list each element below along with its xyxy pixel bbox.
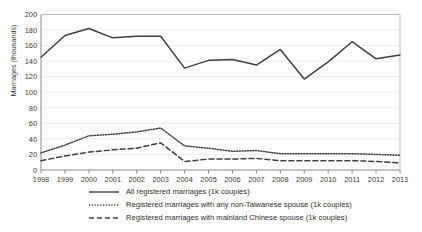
svg-text:2004: 2004: [176, 175, 192, 184]
svg-text:0: 0: [33, 166, 37, 175]
series-line: [41, 29, 400, 80]
line-chart: Marriages (thousands) 020406080100120140…: [0, 0, 422, 232]
legend-key-dashed-icon: [88, 213, 120, 223]
svg-text:120: 120: [25, 72, 37, 81]
svg-text:60: 60: [29, 119, 37, 128]
svg-text:1999: 1999: [57, 175, 73, 184]
legend-label: All registered marriages (1k couples): [126, 187, 250, 197]
svg-text:2008: 2008: [272, 175, 288, 184]
svg-text:2006: 2006: [224, 175, 240, 184]
svg-text:160: 160: [25, 41, 37, 50]
svg-text:2002: 2002: [129, 175, 145, 184]
svg-text:2010: 2010: [320, 175, 336, 184]
svg-text:2009: 2009: [296, 175, 312, 184]
svg-text:2012: 2012: [368, 175, 384, 184]
svg-text:2011: 2011: [344, 175, 360, 184]
legend-label: Registered marriages with mainland Chine…: [126, 213, 347, 223]
series-line: [41, 143, 400, 163]
plot-area: 020406080100120140160180200 199819992000…: [0, 0, 422, 186]
svg-text:2005: 2005: [200, 175, 216, 184]
svg-text:2003: 2003: [152, 175, 168, 184]
legend-key-solid-icon: [88, 187, 120, 197]
svg-text:1998: 1998: [33, 175, 49, 184]
x-axis-tick-labels: 1998199920002001200220032004200520062007…: [33, 175, 408, 184]
legend-item: Registered marriages with mainland Chine…: [88, 212, 352, 223]
svg-text:2007: 2007: [248, 175, 264, 184]
data-series-group: [41, 29, 400, 164]
svg-text:2000: 2000: [81, 175, 97, 184]
legend-item: All registered marriages (1k couples): [88, 186, 352, 197]
x-axis-ticks: [41, 170, 400, 174]
legend-label: Registered marriages with any non-Taiwan…: [126, 200, 352, 210]
svg-text:200: 200: [25, 10, 37, 19]
svg-text:20: 20: [29, 150, 37, 159]
svg-text:180: 180: [25, 26, 37, 35]
series-line: [41, 128, 400, 155]
legend-item: Registered marriages with any non-Taiwan…: [88, 199, 352, 210]
svg-text:40: 40: [29, 135, 37, 144]
svg-text:140: 140: [25, 57, 37, 66]
y-axis-tick-labels: 020406080100120140160180200: [25, 10, 37, 175]
svg-text:2001: 2001: [105, 175, 121, 184]
svg-text:2013: 2013: [392, 175, 408, 184]
legend-key-dotted-icon: [88, 200, 120, 210]
chart-legend: All registered marriages (1k couples) Re…: [88, 186, 352, 223]
svg-text:80: 80: [29, 104, 37, 113]
svg-text:100: 100: [25, 88, 37, 97]
